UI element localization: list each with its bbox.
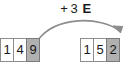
result-digit-2: 2 — [106, 38, 120, 62]
source-digit-9: 9 — [26, 38, 40, 62]
source-number: 1 4 9 — [0, 38, 40, 62]
source-digit-4: 4 — [13, 38, 27, 62]
result-digit-5: 5 — [93, 38, 107, 62]
result-digit-1: 1 — [80, 38, 94, 62]
source-digit-1: 1 — [0, 38, 14, 62]
diagram-canvas: + 3 E 1 4 9 1 5 2 — [0, 0, 134, 62]
result-number: 1 5 2 — [80, 38, 120, 62]
